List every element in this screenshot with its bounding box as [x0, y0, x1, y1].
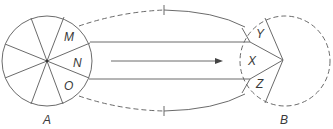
top-arc-solid [164, 10, 245, 27]
label-n: N [73, 56, 82, 70]
label-o: O [64, 79, 73, 93]
diagram-canvas: M N O A Y X Z B [0, 0, 333, 129]
label-y: Y [256, 27, 265, 41]
center-dot [46, 60, 49, 63]
arrow-head-icon [215, 58, 223, 64]
label-m: M [64, 30, 74, 44]
label-a: A [42, 113, 51, 127]
label-z: Z [255, 77, 264, 91]
label-x: X [247, 54, 257, 68]
bottom-arc-dashed [79, 96, 164, 111]
bottom-arc-solid [164, 94, 245, 111]
top-arc-dashed [79, 10, 164, 26]
label-b: B [280, 113, 288, 127]
